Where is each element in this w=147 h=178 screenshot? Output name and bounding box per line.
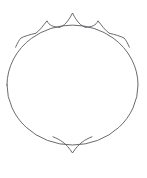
crowned-oval-figure xyxy=(0,0,147,178)
drawing-canvas xyxy=(0,0,147,178)
